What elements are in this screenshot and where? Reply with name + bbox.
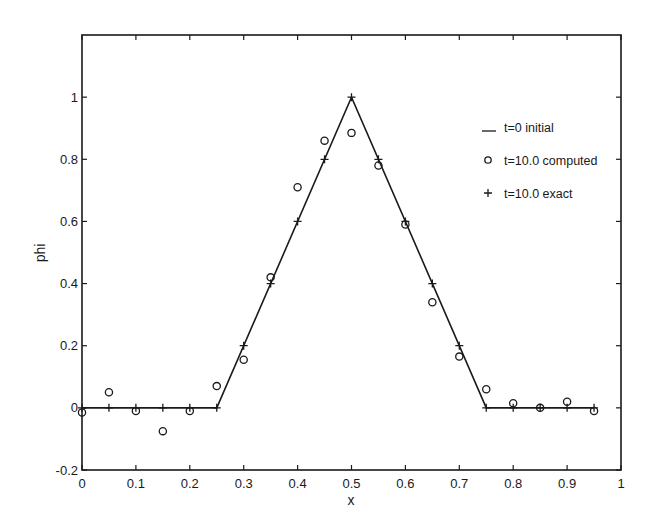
exact-marker [401, 217, 409, 225]
exact-marker [105, 404, 113, 412]
x-tick-label: 0.7 [450, 476, 468, 491]
x-tick-label: 0.6 [396, 476, 414, 491]
exact-marker [374, 155, 382, 163]
x-tick-label: 1 [617, 476, 624, 491]
chart: 00.10.20.30.40.50.60.70.80.91-0.200.20.4… [0, 0, 649, 529]
axis-tick-labels: 00.10.20.30.40.50.60.70.80.91-0.200.20.4… [56, 90, 625, 491]
computed-marker [348, 129, 355, 136]
y-tick-label: 0.6 [60, 214, 78, 229]
exact-marker [455, 342, 463, 350]
exact-marker [294, 217, 302, 225]
exact-marker [213, 404, 221, 412]
computed-marker [483, 386, 490, 393]
legend-item: t=10.0 exact [484, 187, 573, 201]
x-tick-label: 0.4 [289, 476, 307, 491]
exact-marker [186, 404, 194, 412]
x-tick-label: 0.8 [504, 476, 522, 491]
x-tick-label: 0.1 [127, 476, 145, 491]
y-tick-label: -0.2 [56, 463, 78, 478]
exact-marker [132, 404, 140, 412]
computed-marker [213, 383, 220, 390]
legend-circle-icon [485, 157, 491, 163]
x-axis-label: x [348, 492, 355, 508]
exact-marker [590, 404, 598, 412]
legend: t=0 initialt=10.0 computedt=10.0 exact [482, 121, 598, 201]
y-axis-label: phi [32, 244, 48, 263]
computed-marker [159, 428, 166, 435]
y-tick-label: 0 [71, 400, 78, 415]
x-tick-label: 0.3 [235, 476, 253, 491]
exact-marker [348, 93, 356, 101]
computed-marker [105, 389, 112, 396]
y-tick-label: 0.2 [60, 338, 78, 353]
exact-marker [482, 404, 490, 412]
computed-marker [240, 356, 247, 363]
y-tick-label: 0.4 [60, 276, 78, 291]
y-tick-label: 0.8 [60, 152, 78, 167]
computed-marker [456, 353, 463, 360]
exact-marker [563, 404, 571, 412]
x-tick-label: 0 [78, 476, 85, 491]
x-tick-label: 0.5 [342, 476, 360, 491]
exact-marker [428, 280, 436, 288]
exact-marker [321, 155, 329, 163]
legend-item: t=0 initial [482, 121, 554, 135]
x-tick-label: 0.2 [181, 476, 199, 491]
exact-marker [267, 280, 275, 288]
exact-marker [159, 404, 167, 412]
exact-marker [240, 342, 248, 350]
series-layer [78, 93, 598, 435]
x-tick-label: 0.9 [558, 476, 576, 491]
y-tick-label: 1 [71, 90, 78, 105]
legend-plus-icon [484, 189, 492, 197]
legend-label: t=10.0 exact [504, 187, 573, 201]
initial-line [82, 97, 594, 408]
legend-label: t=0 initial [504, 121, 554, 135]
computed-marker [321, 137, 328, 144]
legend-label: t=10.0 computed [504, 154, 598, 168]
legend-item: t=10.0 computed [485, 154, 598, 168]
computed-marker [429, 299, 436, 306]
computed-marker [294, 184, 301, 191]
